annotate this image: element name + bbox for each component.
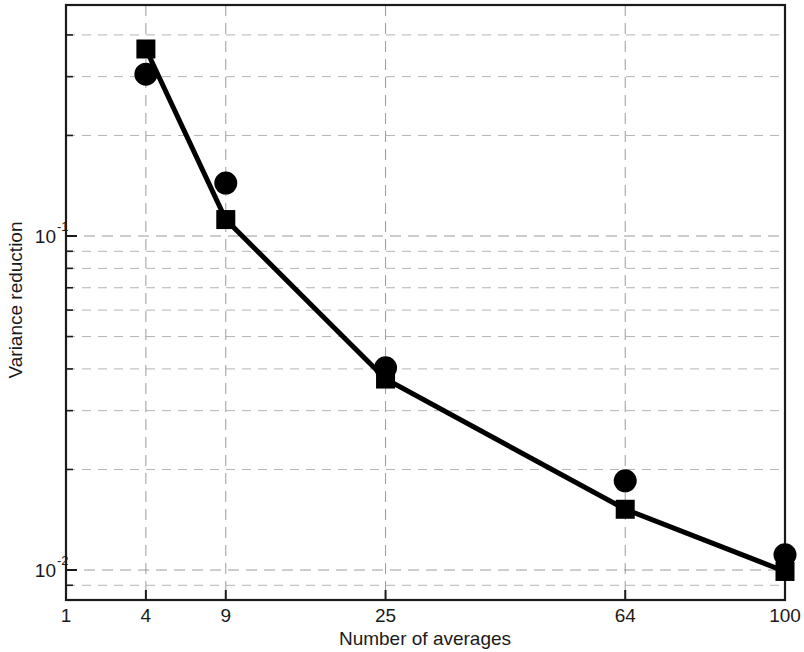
x-tick-label: 1 xyxy=(61,605,72,626)
data-marker-square xyxy=(136,39,155,58)
y-axis-title: Variance reduction xyxy=(5,221,26,378)
chart-canvas: 1492564100 10 -1 10 -2 Variance reductio… xyxy=(0,0,804,652)
data-markers-measured xyxy=(134,63,796,567)
y-tick-label-2-exponent: -2 xyxy=(57,553,69,568)
data-marker-square xyxy=(216,210,235,229)
data-marker-circle xyxy=(214,172,237,195)
y-tick-label-2-mantissa: 10 xyxy=(35,560,56,581)
x-axis-tick-labels: 1492564100 xyxy=(61,605,801,626)
data-marker-square xyxy=(616,500,635,519)
data-marker-circle xyxy=(614,469,637,492)
plot-frame xyxy=(66,5,785,600)
figure-container: 1492564100 10 -1 10 -2 Variance reductio… xyxy=(0,0,804,652)
data-marker-circle xyxy=(374,356,397,379)
x-tick-label: 4 xyxy=(141,605,152,626)
y-tick-label-1-exponent: -1 xyxy=(57,219,69,234)
y-tick-label-1-mantissa: 10 xyxy=(35,226,56,247)
x-axis-tickmarks xyxy=(66,590,785,600)
y-axis-tickmarks xyxy=(66,35,77,585)
horizontal-gridlines xyxy=(66,35,785,585)
x-tick-label: 9 xyxy=(220,605,231,626)
x-tick-label: 100 xyxy=(769,605,801,626)
vertical-gridlines xyxy=(146,5,625,600)
x-tick-label: 25 xyxy=(375,605,396,626)
x-axis-title: Number of averages xyxy=(339,628,511,649)
data-marker-circle xyxy=(774,543,797,566)
x-tick-label: 64 xyxy=(615,605,637,626)
data-line-theoretical xyxy=(146,49,785,571)
data-marker-circle xyxy=(134,63,157,86)
